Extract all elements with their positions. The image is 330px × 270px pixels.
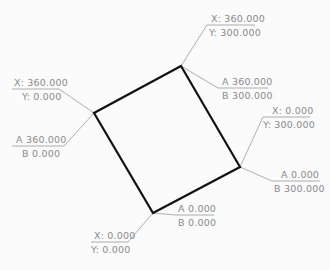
label-bottom-y: Y: 0.000 bbox=[91, 244, 131, 255]
label-left-a: A 360.000 bbox=[16, 134, 67, 145]
label-left-x: X: 360.000 bbox=[14, 77, 68, 88]
label-bottom-x: X: 0.000 bbox=[94, 230, 136, 241]
label-left-b: B 0.000 bbox=[22, 148, 60, 159]
label-right-b: B 300.000 bbox=[274, 183, 325, 194]
label-right-a: A 0.000 bbox=[281, 169, 319, 180]
drawing-canvas: X: 360.000 Y: 300.000 A 360.000 B 300.00… bbox=[0, 0, 330, 270]
label-top-y: Y: 300.000 bbox=[209, 27, 261, 38]
label-right-x: X: 0.000 bbox=[272, 105, 314, 116]
label-bottom-a: A 0.000 bbox=[178, 203, 216, 214]
label-left-y: Y: 0.000 bbox=[22, 91, 62, 102]
label-top-a: A 360.000 bbox=[222, 76, 273, 87]
label-bottom-b: B 0.000 bbox=[178, 217, 216, 228]
label-top-x: X: 360.000 bbox=[211, 13, 265, 24]
label-right-y: Y: 300.000 bbox=[263, 119, 315, 130]
label-top-b: B 300.000 bbox=[222, 90, 273, 101]
